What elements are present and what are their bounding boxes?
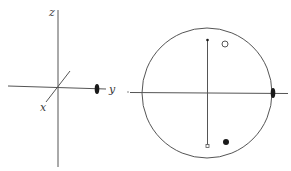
- stray-dot: [127, 91, 129, 93]
- axes-3d-panel: z y x: [8, 6, 129, 167]
- horizontal-diameter: [130, 93, 288, 94]
- bottom-endpoint-square: [206, 145, 209, 148]
- open-circle-pole: [222, 41, 228, 47]
- top-endpoint-dot: [206, 39, 209, 42]
- x-axis-label: x: [40, 101, 47, 114]
- diagram-canvas: z y x: [0, 0, 291, 171]
- twofold-axis-icon: [95, 84, 100, 94]
- z-axis-label: z: [48, 6, 55, 19]
- filled-circle-pole: [223, 139, 229, 145]
- stereogram-panel: [130, 28, 288, 158]
- y-axis-label: y: [108, 83, 116, 96]
- twofold-axis-icon: [271, 88, 276, 98]
